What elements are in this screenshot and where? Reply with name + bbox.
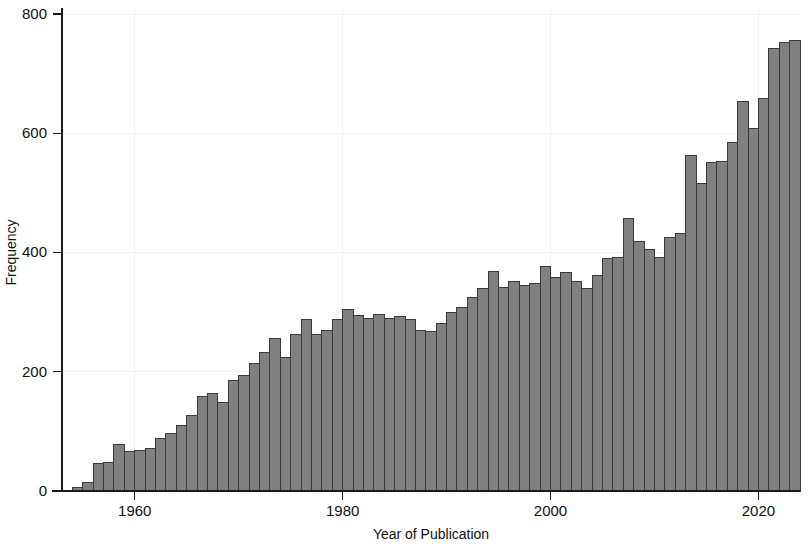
histogram-bar: [675, 233, 685, 491]
histogram-bar: [488, 272, 498, 491]
histogram-bar: [582, 288, 592, 491]
x-tick-label: 2000: [534, 502, 567, 519]
bars-group: [72, 40, 800, 491]
histogram-bar: [519, 285, 529, 491]
histogram-bar: [353, 316, 363, 491]
histogram-bar: [686, 155, 696, 491]
histogram-bar: [447, 312, 457, 491]
y-tick-label: 600: [22, 124, 47, 141]
histogram-bar: [135, 450, 145, 491]
histogram-bar: [197, 397, 207, 491]
histogram-bar: [332, 319, 342, 491]
x-tick-label: 2020: [742, 502, 775, 519]
y-tick-label: 400: [22, 243, 47, 260]
x-tick-label: 1960: [118, 502, 151, 519]
histogram-bar: [343, 310, 353, 491]
histogram-bar: [270, 338, 280, 491]
histogram-bar: [395, 316, 405, 491]
histogram-bar: [239, 375, 249, 491]
histogram-bar: [717, 161, 727, 491]
y-tick-label: 0: [39, 482, 47, 499]
x-axis-ticks: 1960198020002020: [118, 491, 775, 519]
histogram-bar: [218, 403, 228, 491]
histogram-bar: [467, 297, 477, 491]
histogram-bar: [571, 281, 581, 491]
histogram-bar: [790, 40, 800, 491]
histogram-bar: [259, 353, 269, 491]
histogram-bar: [426, 331, 436, 491]
histogram-bar: [551, 278, 561, 491]
histogram-bar: [280, 357, 290, 491]
histogram-bar: [644, 250, 654, 491]
x-tick-label: 1980: [326, 502, 359, 519]
histogram-bar: [436, 323, 446, 491]
histogram-bar: [176, 425, 186, 491]
y-axis-ticks: 0200400600800: [22, 5, 62, 499]
histogram-bar: [654, 257, 664, 491]
histogram-bar: [530, 284, 540, 492]
histogram-bar: [145, 448, 155, 491]
histogram-svg: 0200400600800 1960198020002020 Frequency…: [0, 0, 812, 547]
histogram-bar: [187, 416, 197, 491]
histogram-bar: [696, 184, 706, 491]
histogram-bar: [613, 257, 623, 491]
histogram-bar: [769, 49, 779, 491]
histogram-bar: [478, 289, 488, 491]
histogram-bar: [405, 319, 415, 491]
histogram-bar: [727, 142, 737, 491]
histogram-bar: [457, 307, 467, 491]
histogram-bar: [104, 462, 114, 491]
histogram-bar: [592, 275, 602, 491]
histogram-bar: [748, 128, 758, 491]
histogram-bar: [779, 43, 789, 491]
y-tick-label: 200: [22, 363, 47, 380]
histogram-bar: [623, 219, 633, 491]
histogram-bar: [561, 273, 571, 491]
histogram-bar: [758, 99, 768, 491]
histogram-bar: [311, 334, 321, 491]
histogram-bar: [228, 380, 238, 491]
histogram-bar: [738, 102, 748, 491]
histogram-bar: [374, 315, 384, 491]
histogram-bar: [634, 241, 644, 491]
histogram-bar: [156, 439, 166, 491]
histogram-bar: [363, 318, 373, 491]
histogram-bar: [208, 394, 218, 491]
histogram-bar: [114, 444, 124, 491]
histogram-bar: [301, 319, 311, 491]
histogram-bar: [166, 434, 176, 491]
histogram-bar: [249, 363, 259, 491]
histogram-bar: [665, 238, 675, 491]
histogram-bar: [499, 287, 509, 491]
x-axis-title: Year of Publication: [373, 526, 489, 542]
histogram-bar: [509, 281, 519, 491]
histogram-bar: [706, 162, 716, 491]
histogram-chart: 0200400600800 1960198020002020 Frequency…: [0, 0, 812, 547]
histogram-bar: [291, 335, 301, 491]
histogram-bar: [415, 330, 425, 491]
y-axis-title: Frequency: [3, 219, 19, 285]
histogram-bar: [603, 258, 613, 491]
histogram-bar: [384, 318, 394, 491]
histogram-bar: [93, 464, 103, 491]
histogram-bar: [322, 330, 332, 491]
histogram-bar: [83, 483, 93, 491]
y-tick-label: 800: [22, 5, 47, 22]
histogram-bar: [124, 452, 134, 491]
histogram-bar: [540, 266, 550, 491]
